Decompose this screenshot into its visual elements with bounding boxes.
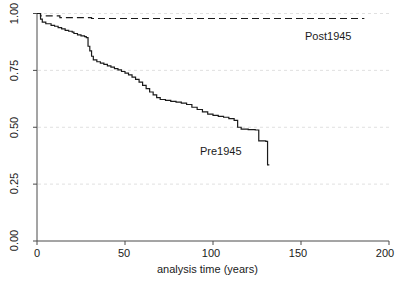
series-label-pre1945: Pre1945 bbox=[200, 146, 242, 157]
x-axis-ticks bbox=[37, 241, 389, 245]
y-axis-ticks bbox=[33, 14, 37, 242]
y-tick-label-1: 0.25 bbox=[9, 164, 20, 204]
x-tick-label-2: 100 bbox=[191, 248, 231, 259]
survival-chart: 0.00 0.25 0.50 0.75 1.00 0 50 100 150 20… bbox=[0, 0, 404, 282]
series-path-post1945 bbox=[37, 14, 364, 19]
series-label-post1945: Post1945 bbox=[305, 31, 351, 42]
x-tick-label-4: 200 bbox=[365, 248, 404, 259]
x-tick-label-3: 150 bbox=[278, 248, 318, 259]
plot-area bbox=[0, 0, 404, 282]
y-tick-label-3: 0.75 bbox=[9, 51, 20, 91]
x-tick-label-0: 0 bbox=[17, 248, 57, 259]
y-tick-label-2: 0.50 bbox=[9, 108, 20, 148]
series-path-pre1945 bbox=[37, 14, 269, 165]
x-tick-label-1: 50 bbox=[104, 248, 144, 259]
x-axis-title: analysis time (years) bbox=[157, 264, 258, 275]
y-tick-label-4: 1.00 bbox=[9, 0, 20, 34]
